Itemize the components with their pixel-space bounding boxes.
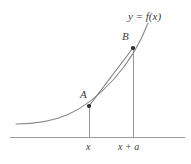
point-a-label: A — [80, 89, 87, 100]
figure-canvas — [0, 0, 191, 164]
math-figure: A B y = f(x) x x + a — [0, 0, 191, 164]
point-a-marker — [87, 104, 91, 108]
axis-tick-label-x: x — [86, 142, 90, 152]
point-b-label: B — [122, 31, 129, 42]
point-b-marker — [131, 46, 135, 50]
curve-equation-label: y = f(x) — [128, 11, 161, 22]
axis-tick-label-x-plus-a: x + a — [118, 142, 139, 152]
secant-chord — [89, 48, 133, 106]
